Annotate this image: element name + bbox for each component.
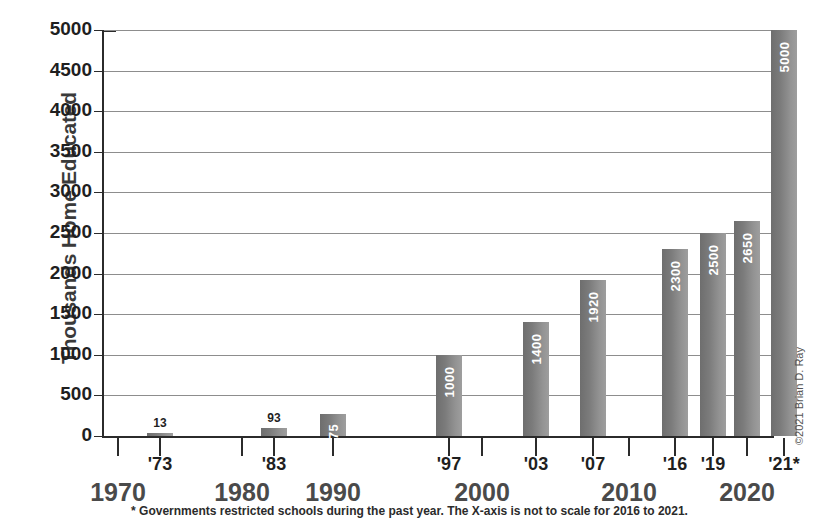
bar[interactable]: 1400 — [523, 322, 549, 436]
bar[interactable]: 93 — [261, 428, 287, 436]
x-tick-mark — [481, 438, 483, 456]
y-tick-mark — [94, 355, 103, 356]
bar-value-label: 2650 — [740, 221, 755, 263]
bar-value-label: 13 — [153, 416, 166, 430]
x-major-label: 2010 — [574, 478, 684, 507]
bar-value-label: 1000 — [442, 355, 457, 397]
y-tick-mark — [94, 30, 103, 31]
x-minor-label: '21* — [754, 454, 814, 475]
bar-value-label: 2300 — [668, 250, 683, 292]
y-tick-label: 3500 — [30, 140, 92, 162]
bar[interactable]: 1920 — [580, 280, 606, 436]
y-tick-mark — [94, 192, 103, 193]
x-major-label: 2000 — [427, 478, 537, 507]
x-tick-mark — [332, 438, 334, 456]
x-minor-label: '07 — [563, 454, 623, 475]
y-tick-label: 4000 — [30, 99, 92, 121]
y-tick-mark — [94, 233, 103, 234]
y-tick-mark — [94, 436, 103, 437]
bar-value-label: 1920 — [586, 281, 601, 323]
x-minor-label: '83 — [244, 454, 304, 475]
y-tick-label: 5000 — [30, 18, 92, 40]
x-tick-mark — [628, 438, 630, 456]
y-tick-label: 2000 — [30, 262, 92, 284]
x-tick-mark — [746, 438, 748, 456]
x-tick-mark — [241, 438, 243, 456]
bar-value-label: 5000 — [777, 31, 792, 73]
x-major-label: 1990 — [278, 478, 388, 507]
gridline — [104, 152, 774, 153]
plot-area: 5000450040003500300025002000150010005000… — [102, 30, 774, 438]
x-minor-label: '19 — [683, 454, 743, 475]
x-tick-mark — [117, 438, 119, 456]
y-tick-mark — [94, 274, 103, 275]
x-major-label: 2020 — [692, 478, 802, 507]
y-tick-mark — [94, 71, 103, 72]
y-tick-label: 500 — [30, 383, 92, 405]
chart-footnote: * Governments restricted schools during … — [0, 504, 819, 518]
copyright-notice: ©2021 Brian D. Ray — [793, 326, 805, 466]
y-tick-label: 4500 — [30, 59, 92, 81]
bar[interactable]: 2650 — [734, 221, 760, 436]
y-tick-mark — [94, 152, 103, 153]
y-tick-label: 1500 — [30, 302, 92, 324]
x-minor-label: '97 — [419, 454, 479, 475]
bar-value-label: 1400 — [529, 323, 544, 365]
bar[interactable]: 1000 — [436, 355, 462, 436]
bar[interactable]: 275 — [320, 414, 346, 436]
x-major-label: 1970 — [63, 478, 173, 507]
y-tick-label: 2500 — [30, 221, 92, 243]
bar[interactable]: 2300 — [662, 249, 688, 436]
y-tick-label: 0 — [30, 424, 92, 446]
bar[interactable]: 2500 — [700, 233, 726, 436]
gridline — [104, 192, 774, 193]
y-tick-label: 3000 — [30, 180, 92, 202]
gridline — [104, 71, 774, 72]
bar-value-label: 93 — [267, 411, 280, 425]
bar[interactable]: 13 — [147, 433, 173, 436]
y-tick-mark — [94, 395, 103, 396]
y-tick-label: 1000 — [30, 343, 92, 365]
gridline — [104, 233, 774, 234]
gridline — [104, 30, 774, 31]
y-axis-line — [102, 30, 104, 438]
bar-value-label: 2500 — [706, 234, 721, 276]
gridline — [104, 111, 774, 112]
y-tick-mark — [94, 314, 103, 315]
chart-container: Thousands Home Educated 5000450040003500… — [0, 0, 819, 531]
y-tick-mark — [94, 111, 103, 112]
x-minor-label: '03 — [506, 454, 566, 475]
x-minor-label: '73 — [130, 454, 190, 475]
